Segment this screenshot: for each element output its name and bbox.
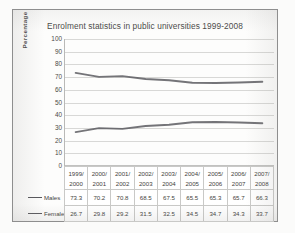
y-tick-label: 60 — [55, 87, 62, 93]
table-cell-value: 70.8 — [111, 190, 134, 206]
legend-line-swatch — [28, 197, 42, 199]
legend-label: Females — [44, 210, 65, 217]
table-cell-value: 73.3 — [65, 190, 88, 206]
table-cell-value: 29.8 — [88, 206, 111, 222]
y-tick-label: 70 — [55, 74, 62, 80]
y-tick-label: 80 — [55, 61, 62, 67]
table-row: Females26.729.829.231.532.534.534.734.33… — [27, 206, 274, 222]
table-header-row: 1999/20002000/20012001/20022002/20032003… — [27, 167, 274, 190]
legend-entry-females: Females — [27, 206, 65, 222]
y-tick-label: 30 — [55, 125, 62, 131]
data-table-body: 1999/20002000/20012001/20022002/20032003… — [27, 167, 274, 222]
table-cell-value: 70.2 — [88, 190, 111, 206]
data-table: 1999/20002000/20012001/20022002/20032003… — [27, 166, 274, 222]
series-lines — [64, 39, 274, 166]
legend-line-swatch — [28, 213, 42, 215]
table-cell-value: 33.7 — [250, 206, 273, 222]
y-tick-label: 20 — [55, 137, 62, 143]
y-tick-label: 50 — [55, 99, 62, 105]
table-corner-cell — [27, 167, 65, 190]
table-cell-value: 67.5 — [157, 190, 180, 206]
series-line-males — [76, 73, 263, 83]
column-header-year: 2004/2005 — [181, 167, 204, 190]
legend-label: Males — [44, 194, 60, 201]
table-cell-value: 65.5 — [181, 190, 204, 206]
y-tick-label: 10 — [55, 150, 62, 156]
table-cell-value: 31.5 — [134, 206, 157, 222]
column-header-year: 2003/2004 — [157, 167, 180, 190]
y-tick-label: 40 — [55, 112, 62, 118]
table-cell-value: 34.3 — [227, 206, 250, 222]
table-row: Males73.370.270.868.567.565.565.365.766.… — [27, 190, 274, 206]
column-header-year: 2002/2003 — [134, 167, 157, 190]
series-line-females — [76, 122, 263, 132]
table-cell-value: 32.5 — [157, 206, 180, 222]
table-cell-value: 65.3 — [204, 190, 227, 206]
y-axis-title: Percentage — [21, 0, 28, 65]
table-cell-value: 68.5 — [134, 190, 157, 206]
table-cell-value: 34.5 — [181, 206, 204, 222]
chart-frame: Enrolment statistics in public universit… — [12, 9, 278, 222]
plot-area — [64, 39, 274, 166]
table-cell-value: 65.7 — [227, 190, 250, 206]
column-header-year: 2005/2006 — [204, 167, 227, 190]
y-tick-label: 90 — [55, 48, 62, 54]
chart-title: Enrolment statistics in public universit… — [13, 21, 277, 31]
table-cell-value: 29.2 — [111, 206, 134, 222]
y-tick-label: 100 — [51, 36, 62, 42]
chart-image: Enrolment statistics in public universit… — [0, 0, 295, 233]
column-header-year: 2001/2002 — [111, 167, 134, 190]
column-header-year: 2000/2001 — [88, 167, 111, 190]
table-cell-value: 66.3 — [250, 190, 273, 206]
table-cell-value: 26.7 — [65, 206, 88, 222]
column-header-year: 2006/2007 — [227, 167, 250, 190]
column-header-year: 2007/2008 — [250, 167, 273, 190]
y-axis-tick-labels: 1009080706050403020100 — [38, 39, 62, 166]
table-cell-value: 34.7 — [204, 206, 227, 222]
legend-entry-males: Males — [27, 190, 65, 206]
column-header-year: 1999/2000 — [65, 167, 88, 190]
